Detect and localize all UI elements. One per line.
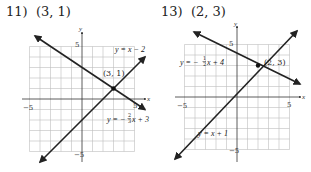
svg-text:x: x [301, 93, 306, 101]
svg-text:3: 3 [128, 118, 131, 124]
svg-text:2: 2 [203, 61, 206, 67]
svg-text:y = −: y = − [179, 58, 198, 67]
svg-text:(2, 3): (2, 3) [264, 58, 286, 67]
svg-text:5: 5 [287, 101, 291, 109]
graph-panel-13: 13) (2, 3) x y −5 5 [155, 0, 311, 172]
svg-text:x + 4: x + 4 [206, 58, 224, 67]
intersection-point [111, 86, 115, 90]
graph-panel-11: 11) (3, 1) x y −5 5 [0, 0, 155, 172]
svg-text:5: 5 [75, 41, 79, 49]
intersection-point [256, 63, 260, 67]
svg-text:y = x + 1: y = x + 1 [197, 129, 228, 138]
svg-text:−5: −5 [23, 104, 33, 112]
svg-text:−5: −5 [74, 151, 84, 159]
svg-text:x: x [146, 95, 151, 103]
svg-text:(3, 1): (3, 1) [103, 69, 125, 78]
svg-text:x + 3: x + 3 [131, 115, 149, 124]
svg-text:y: y [78, 25, 83, 33]
svg-text:y = x − 2: y = x − 2 [114, 45, 145, 54]
svg-text:−5: −5 [229, 147, 239, 155]
coordinate-graph: x y −5 5 5 −5 (2, 3) y = − 1 2 x + 4 y =… [155, 0, 311, 172]
svg-text:5: 5 [229, 40, 233, 48]
svg-text:y = −: y = − [106, 115, 125, 124]
svg-text:−5: −5 [177, 102, 187, 110]
coordinate-graph: x y −5 5 5 −5 (3, 1) y = x − 2 y = − 2 3… [0, 0, 155, 172]
